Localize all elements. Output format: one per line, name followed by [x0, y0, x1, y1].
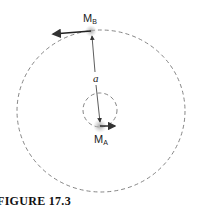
- separation-arrow-up: [92, 36, 95, 72]
- mass-a-label: MA: [94, 133, 108, 146]
- binary-orbit-diagram: [0, 0, 201, 205]
- mass-b-label: MB: [83, 12, 97, 25]
- figure-caption: FIGURE 17.3: [0, 194, 71, 205]
- separation-label: a: [93, 72, 99, 84]
- outer-orbit: [17, 30, 185, 192]
- separation-arrow-down: [96, 85, 100, 122]
